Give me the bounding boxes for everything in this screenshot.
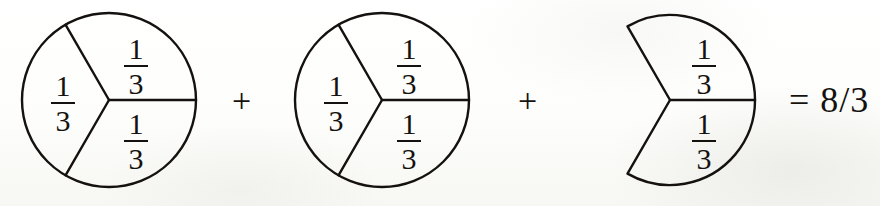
fraction-numerator: 1: [119, 108, 153, 139]
fraction-numerator: 1: [392, 33, 426, 64]
fraction-diagram-canvas: 1 3 1 3 1 3 + 1 3 1 3 1 3 + 1 3 1: [0, 0, 880, 206]
fraction-denominator: 3: [319, 105, 353, 136]
fraction-denominator: 3: [119, 68, 153, 99]
plus-operator-1: +: [232, 84, 251, 118]
fraction-numerator: 1: [319, 70, 353, 101]
fraction-label-c3-top: 1 3: [687, 33, 721, 99]
fraction-denominator: 3: [687, 68, 721, 99]
fraction-numerator: 1: [119, 33, 153, 64]
fraction-label-c2-bottom: 1 3: [392, 108, 426, 174]
plus-operator-2: +: [518, 84, 537, 118]
fraction-label-c1-left: 1 3: [46, 70, 80, 136]
fraction-label-c1-bottom: 1 3: [119, 108, 153, 174]
fraction-denominator: 3: [46, 105, 80, 136]
fraction-denominator: 3: [392, 68, 426, 99]
fraction-label-c1-top: 1 3: [119, 33, 153, 99]
result-equals-value: = 8/3: [789, 82, 869, 118]
fraction-label-c2-left: 1 3: [319, 70, 353, 136]
fraction-numerator: 1: [46, 70, 80, 101]
fraction-numerator: 1: [392, 108, 426, 139]
fraction-denominator: 3: [119, 143, 153, 174]
fraction-denominator: 3: [392, 143, 426, 174]
fraction-numerator: 1: [687, 33, 721, 64]
fraction-numerator: 1: [687, 108, 721, 139]
fraction-label-c3-bottom: 1 3: [687, 108, 721, 174]
fraction-denominator: 3: [687, 143, 721, 174]
fraction-circles-svg: [0, 0, 880, 206]
fraction-label-c2-top: 1 3: [392, 33, 426, 99]
